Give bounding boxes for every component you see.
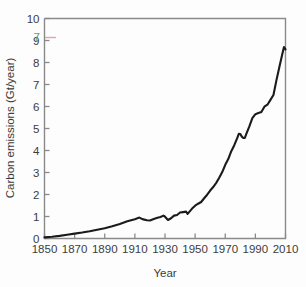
x-tick-label: 1990	[243, 243, 269, 255]
carbon-emissions-line-chart: 012345678910 185018701890191019301950197…	[0, 0, 306, 287]
y-tick-label: 4	[33, 145, 40, 157]
y-tick-label: 7	[33, 79, 39, 91]
x-axis-tick-labels: 185018701890191019301950197019902010	[32, 243, 299, 255]
chart-figure: 012345678910 185018701890191019301950197…	[0, 0, 306, 287]
x-tick-label: 1950	[182, 243, 208, 255]
x-tick-label: 1910	[122, 243, 148, 255]
y-tick-label: 6	[33, 101, 39, 113]
x-tick-label: 1890	[92, 243, 118, 255]
x-axis-title: Year	[153, 267, 176, 279]
y-tick-label: 3	[33, 167, 39, 179]
x-tick-label: 1930	[152, 243, 178, 255]
x-tick-label: 1970	[212, 243, 238, 255]
y-axis-title: Carbon emissions (Gt/year)	[4, 58, 16, 199]
artifact-label: 7	[34, 31, 40, 43]
x-tick-label: 1850	[32, 243, 58, 255]
y-tick-label: 8	[33, 57, 39, 69]
y-tick-label: 1	[33, 211, 39, 223]
y-tick-label: 5	[33, 123, 39, 135]
x-tick-label: 2010	[273, 243, 299, 255]
x-tick-label: 1870	[62, 243, 88, 255]
y-tick-label: 10	[27, 13, 40, 25]
y-tick-label: 2	[33, 189, 39, 201]
